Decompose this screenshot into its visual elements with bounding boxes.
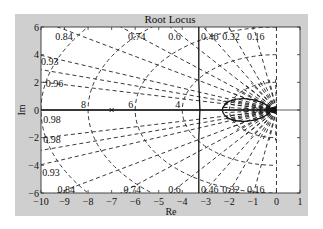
damping-label: 0.6 [168,31,181,42]
x-tick-label: −2 [224,196,235,207]
x-axis-label: Re [165,206,177,217]
damping-label: 0.84 [55,31,73,42]
y-tick-label: 4 [34,49,39,60]
y-tick-label: 0 [34,105,39,116]
frequency-label: 4 [175,99,180,110]
damping-label: 0.46 [201,31,219,42]
y-tick-label: 6 [34,22,39,33]
damping-label: 0.93 [42,167,60,178]
damping-label: 0.46 [201,184,219,195]
chart-title: Root Locus [144,13,195,25]
damping-label: 0.32 [222,31,240,42]
damping-label: 0.96 [46,78,64,89]
damping-label: 0.74 [128,31,146,42]
y-tick-label: 2 [34,77,39,88]
x-tick-label: −1 [248,196,259,207]
y-tick-label: −4 [28,160,39,171]
damping-label: 0.16 [247,31,264,42]
damping-label: 0.32 [222,184,240,195]
frequency-label: 2 [222,99,227,110]
y-axis-label: Im [16,104,27,115]
frequency-label: 8 [81,99,86,110]
damping-label: 0.84 [57,184,75,195]
frequency-label: 6 [128,99,133,110]
x-tick-label: 0 [274,196,279,207]
x-tick-label: −4 [177,196,188,207]
x-tick-label: −5 [153,196,164,207]
x-tick-label: −7 [106,196,117,207]
x-tick-label: −9 [59,196,70,207]
damping-label: 0.98 [43,114,61,125]
damping-label: 0.93 [41,56,59,67]
damping-label: 0.74 [123,184,141,195]
root-locus-chart: 86420.840.740.60.460.320.160.930.960.980… [0,0,323,229]
y-tick-label: −6 [28,188,39,199]
y-tick-label: −2 [28,132,39,143]
x-tick-label: −6 [130,196,141,207]
damping-label: 0.16 [247,184,264,195]
origin-cluster [270,107,276,113]
x-tick-label: −8 [83,196,94,207]
x-tick-label: 1 [298,196,303,207]
damping-label: 0.6 [168,184,181,195]
x-tick-label: −3 [200,196,211,207]
damping-label: 0.98 [43,134,61,145]
